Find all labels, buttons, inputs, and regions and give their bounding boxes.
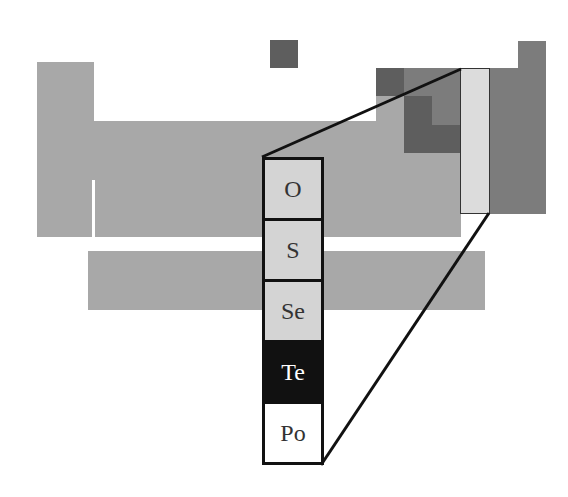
element-symbol: Po	[280, 420, 305, 447]
element-cell-o: O	[265, 160, 321, 218]
hydrogen-block	[270, 40, 298, 68]
helium-column-top	[518, 41, 546, 69]
element-cell-se: Se	[265, 282, 321, 340]
nonmetal-region-top	[404, 68, 461, 96]
element-cell-te: Te	[265, 343, 321, 401]
group-16-column: O S Se Te Po	[262, 157, 324, 465]
element-symbol: O	[284, 176, 301, 203]
table-gap-line	[92, 180, 95, 237]
metalloid-stair-b	[432, 125, 461, 153]
group-1-2-block	[37, 62, 94, 237]
metalloid-stair-a	[404, 96, 432, 153]
group-16-highlight	[461, 69, 489, 213]
boron-cell	[376, 68, 404, 96]
element-cell-s: S	[265, 221, 321, 279]
element-symbol: S	[286, 237, 299, 264]
element-symbol: Se	[281, 298, 305, 325]
element-symbol: Te	[281, 359, 305, 386]
group-17-18-block	[489, 68, 546, 214]
element-cell-po: Po	[265, 404, 321, 462]
nonmetal-region-mid	[432, 96, 461, 125]
